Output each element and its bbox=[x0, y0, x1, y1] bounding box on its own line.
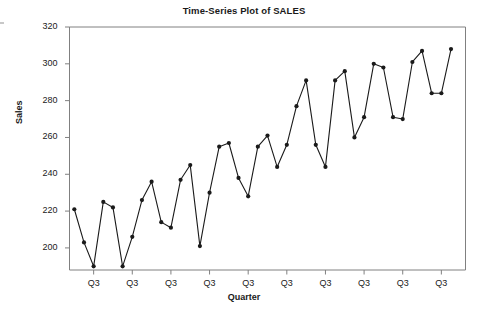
x-tick-marks bbox=[94, 270, 442, 275]
x-tick-label: Q3 bbox=[120, 278, 144, 288]
series-line bbox=[74, 49, 451, 266]
series-markers bbox=[72, 47, 453, 268]
x-tick-label: Q3 bbox=[313, 278, 337, 288]
y-tick-label: 240 bbox=[28, 168, 58, 178]
x-tick-label: Q3 bbox=[159, 278, 183, 288]
y-tick-label: 320 bbox=[28, 21, 58, 31]
x-tick-label: Q3 bbox=[391, 278, 415, 288]
axis-frame bbox=[70, 27, 466, 270]
x-tick-label: Q3 bbox=[198, 278, 222, 288]
y-tick-label: 220 bbox=[28, 205, 58, 215]
y-tick-label: 200 bbox=[28, 242, 58, 252]
x-tick-label: Q3 bbox=[429, 278, 453, 288]
y-tick-label: 260 bbox=[28, 131, 58, 141]
x-tick-label: Q3 bbox=[275, 278, 299, 288]
chart-figure: Time-Series Plot of SALES Sales Quarter … bbox=[0, 0, 488, 316]
plot-area bbox=[0, 0, 488, 316]
y-tick-label: 300 bbox=[28, 58, 58, 68]
x-tick-label: Q3 bbox=[352, 278, 376, 288]
x-tick-label: Q3 bbox=[82, 278, 106, 288]
x-tick-label: Q3 bbox=[236, 278, 260, 288]
y-tick-label: 280 bbox=[28, 95, 58, 105]
y-tick-marks bbox=[65, 27, 70, 248]
